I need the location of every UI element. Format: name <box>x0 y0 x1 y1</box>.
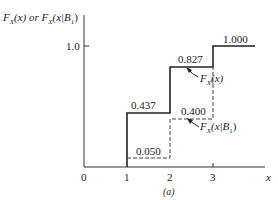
y-axis-label: FX(x) or FX(x|B1) <box>3 12 78 26</box>
ann1-f: F <box>200 72 207 84</box>
ylabel-end: (x|B <box>53 11 71 23</box>
annotation-fxb1: FX(x|B1) <box>200 121 236 135</box>
x-tick-label-3: 3 <box>210 172 216 183</box>
caption: (a) <box>163 187 175 197</box>
value-1000: 1.000 <box>223 34 248 45</box>
ylabel-mid: (x) or F <box>14 11 48 23</box>
value-0827: 0.827 <box>178 54 203 65</box>
x-tick-label-2: 2 <box>167 172 173 183</box>
x-tick-label-1: 1 <box>124 172 130 183</box>
x-axis-label: x <box>266 172 271 183</box>
ann2-f: F <box>200 120 207 132</box>
ylabel-close: ) <box>74 11 78 23</box>
value-0400: 0.400 <box>181 106 206 117</box>
value-0050: 0.050 <box>136 146 161 157</box>
ann2-close: ) <box>233 120 237 132</box>
x-tick-label-0: 0 <box>81 172 87 183</box>
annotation-fx: FX(x) <box>200 73 223 87</box>
y-tick-label-1: 1.0 <box>66 41 80 52</box>
ann1-rest: (x) <box>211 72 223 84</box>
ylabel-f: F <box>3 11 10 23</box>
ann2-rest: (x|B <box>211 120 229 132</box>
value-0437: 0.437 <box>131 100 156 111</box>
